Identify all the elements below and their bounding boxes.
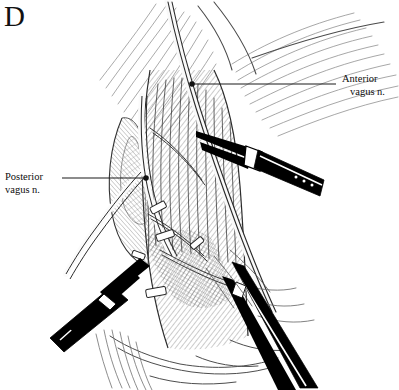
panel-letter: D	[4, 2, 25, 31]
label-anterior-vagus-line2: vagus n.	[342, 85, 385, 98]
label-posterior-vagus: Posterior vagus n.	[5, 170, 43, 196]
figure-panel: D Posterior vagus n. Anterior vagus n.	[0, 0, 399, 390]
label-anterior-vagus: Anterior vagus n.	[342, 72, 385, 98]
label-posterior-vagus-line2: vagus n.	[5, 183, 43, 196]
label-anterior-vagus-line1: Anterior	[342, 73, 378, 84]
label-posterior-vagus-line1: Posterior	[5, 171, 43, 182]
surgical-illustration	[0, 0, 399, 390]
